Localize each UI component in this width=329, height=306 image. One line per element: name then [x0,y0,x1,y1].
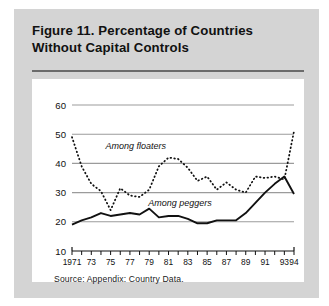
title-divider [32,70,304,72]
series-label-among-peggers: Among peggers [147,198,212,208]
figure-panel: Figure 11. Percentage of Countries Witho… [14,9,319,298]
x-axis-label-1993: 93 [280,257,290,267]
x-axis-label-1971: 1971 [63,257,82,267]
y-axis-label-10: 10 [55,246,66,257]
y-axis-label-20: 20 [55,216,66,227]
figure-title-line-1: Figure 11. Percentage of Countries [32,23,253,38]
x-axis-label-1979: 79 [145,257,155,267]
x-axis-label-1975: 75 [106,257,116,267]
figure-title-line-2: Without Capital Controls [32,40,189,55]
y-axis-label-50: 50 [55,129,66,140]
x-axis-label-1977: 77 [125,257,135,267]
series-label-among-floaters: Among floaters [104,141,166,151]
y-axis-label-60: 60 [55,100,66,111]
x-axis-label-1987: 87 [222,257,232,267]
figure-title: Figure 11. Percentage of Countries Witho… [32,23,302,57]
x-axis-label-1983: 83 [183,257,193,267]
x-axis-label-1991: 91 [260,257,270,267]
source-note: Source: Appendix: Country Data. [54,274,184,284]
chart-card: 1020304050601971737577798183858789919394… [32,79,304,282]
y-axis-label-30: 30 [55,187,66,198]
x-axis-label-1973: 73 [87,257,97,267]
x-axis-label-1989: 89 [241,257,251,267]
x-axis-label-1994: 94 [289,257,299,267]
x-axis-label-1985: 85 [202,257,212,267]
y-axis-label-40: 40 [55,158,66,169]
line-chart: 1020304050601971737577798183858789919394… [32,79,304,282]
x-axis-label-1981: 81 [164,257,174,267]
